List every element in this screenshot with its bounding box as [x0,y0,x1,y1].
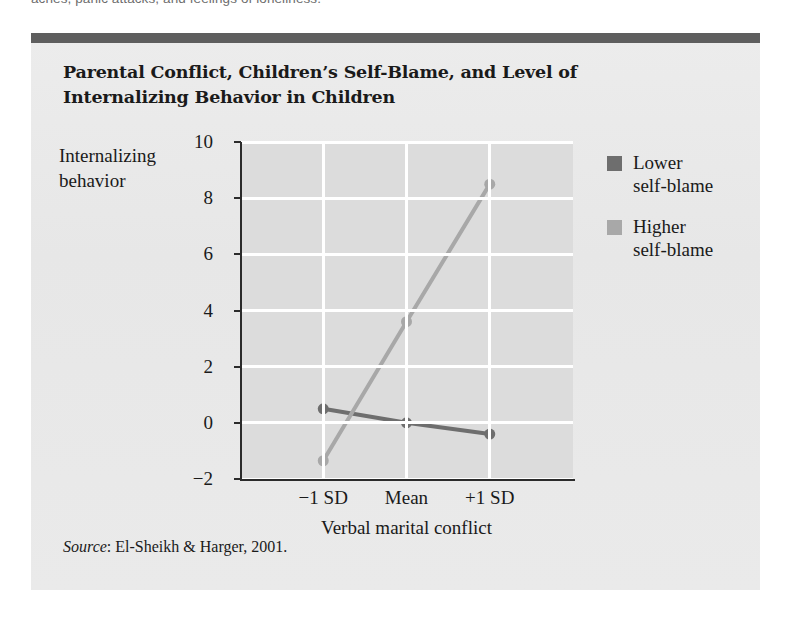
y-axis-tick-mark [234,197,241,199]
legend-label-line-2: self-blame [633,174,713,197]
y-axis-tick-mark [234,141,241,143]
legend-label-line-1: Lower [633,151,713,174]
legend-label: Lowerself-blame [633,151,713,197]
figure-title-line-1: Parental Conflict, Children’s Self-Blame… [63,60,683,85]
y-axis-tick-label: 6 [153,243,213,265]
figure-container: Parental Conflict, Children’s Self-Blame… [31,33,760,590]
y-axis-tick-label: 2 [153,356,213,378]
legend-item[interactable]: Lowerself-blame [607,151,757,197]
y-axis-line [240,142,242,481]
y-axis-tick-mark [234,478,241,480]
chart: Internalizing behavior 1086420−2 −1 SDMe… [31,103,760,553]
x-axis-tick-label: +1 SD [430,487,550,509]
legend-swatch-icon [607,156,622,171]
figure-header-bar [31,33,760,43]
chart-legend: Lowerself-blameHigherself-blame [607,151,757,279]
y-axis-tick-label: −2 [153,468,213,490]
legend-swatch-icon [607,220,622,235]
legend-label-line-1: Higher [633,215,713,238]
legend-label-line-2: self-blame [633,238,713,261]
page-body-text-fragment: aches, panic attacks, and feelings of lo… [31,0,591,6]
x-axis-title: Verbal marital conflict [240,517,573,539]
legend-label: Higherself-blame [633,215,713,261]
gridline-vertical [405,142,408,479]
y-axis-tick-label: 10 [153,131,213,153]
gridline-vertical [322,142,325,479]
y-axis-tick-label: 0 [153,412,213,434]
source-citation: : El-Sheikh & Harger, 2001. [107,538,287,555]
legend-item[interactable]: Higherself-blame [607,215,757,261]
x-axis-line [240,479,575,481]
plot-area [240,142,573,479]
y-axis-tick-mark [234,253,241,255]
y-axis-tick-label: 4 [153,300,213,322]
y-axis-tick-mark [234,366,241,368]
figure-source: Source: El-Sheikh & Harger, 2001. [63,538,287,556]
y-axis-tick-mark [234,422,241,424]
y-axis-tick-label: 8 [153,187,213,209]
source-label: Source [63,538,107,555]
y-axis-tick-mark [234,310,241,312]
gridline-vertical [488,142,491,479]
